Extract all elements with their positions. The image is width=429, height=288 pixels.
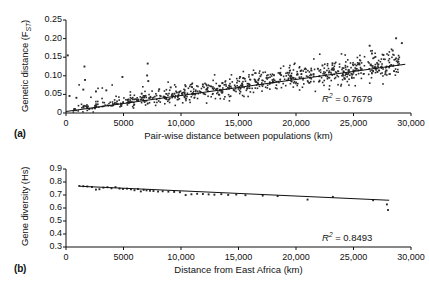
panel-b-x-tick-label: 10,000 (151, 252, 211, 262)
panel-b-x-axis-label: Distance from East Africa (km) (66, 264, 411, 275)
panel-b-r-squared-annotation: R2 = 0.8493 (322, 231, 372, 243)
panel-b-x-tick-label: 20,000 (266, 252, 326, 262)
panel-b-x-tick-label: 5000 (94, 252, 154, 262)
panel-a-x-axis-label: Pair-wise distance between populations (… (66, 130, 411, 141)
panel-a-x-tick-label: 0 (36, 118, 96, 128)
panel-a-genetic-distance: Genetic distance (FST) 0 0.05 0.10 0.15 … (0, 0, 420, 150)
panel-b-x-tick-label: 15,000 (209, 252, 269, 262)
panel-a-x-tick-label: 10,000 (151, 118, 211, 128)
panel-a-x-tick-label: 20,000 (266, 118, 326, 128)
panel-a-x-tick-label: 30,000 (381, 118, 429, 128)
panel-b-x-tick-label: 25,000 (324, 252, 384, 262)
panel-b-tag: (b) (14, 263, 26, 274)
panel-a-x-tick-label: 5000 (94, 118, 154, 128)
panel-a-x-tick-label: 25,000 (324, 118, 384, 128)
panel-a-r-squared-annotation: R2 = 0.7679 (322, 92, 372, 104)
panel-b-x-tick-label: 0 (36, 252, 96, 262)
panel-a-tag: (a) (14, 128, 26, 139)
panel-b-gene-diversity: Gene diversity (Hs) 0.3 0.4 0.5 0.6 0.7 … (0, 150, 420, 288)
panel-a-x-tick-label: 15,000 (209, 118, 269, 128)
panel-b-x-tick-label: 30,000 (381, 252, 429, 262)
